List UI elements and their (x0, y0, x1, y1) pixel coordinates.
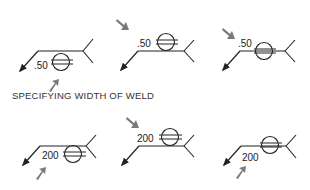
pointer-arrow-icon (116, 19, 129, 30)
plug-weld-circle-icon (65, 146, 82, 163)
arrow-leader (122, 146, 139, 165)
pointer-arrow-icon (236, 166, 246, 179)
width-label: .50 (34, 60, 48, 71)
tail-upper (286, 135, 296, 146)
arrow-leader (23, 146, 40, 165)
tail-upper (83, 39, 93, 51)
tail-lower (285, 51, 295, 62)
plug-weld-circle-icon (162, 129, 179, 146)
weld-symbol-r1-arrow-side: .50 (20, 39, 93, 92)
tail-upper (184, 40, 194, 51)
arrow-leader (224, 146, 241, 165)
tail-lower (86, 146, 96, 158)
weld-symbol-r2-other-side: 200 (122, 117, 194, 165)
width-label: .50 (137, 38, 151, 49)
weld-symbol-r2-arrow-side: 200 (23, 135, 96, 180)
tail-upper (86, 135, 96, 146)
width-label: 200 (137, 133, 154, 144)
plug-weld-circle-icon (158, 34, 175, 51)
arrow-leader (121, 51, 138, 70)
width-label: 200 (42, 150, 59, 161)
section-caption: SPECIFYING WIDTH OF WELD (12, 90, 154, 101)
width-label: 200 (242, 152, 259, 163)
tail-lower (83, 51, 93, 63)
pointer-arrow-icon (222, 28, 235, 39)
tail-lower (286, 146, 296, 158)
width-label: .50 (238, 38, 252, 49)
tail-lower (184, 51, 194, 62)
tail-upper (184, 135, 194, 146)
arrow-leader (223, 51, 240, 70)
weld-symbol-r1-centered: .50 (222, 28, 295, 70)
pointer-arrow-icon (36, 167, 46, 180)
tail-lower (184, 146, 194, 157)
plug-weld-circle-icon (53, 54, 70, 71)
plug-weld-circle-icon (262, 137, 279, 154)
pointer-arrow-icon (126, 117, 139, 128)
weld-symbol-r2-centered: 200 (224, 135, 296, 179)
weld-symbol-r1-other-side: .50 (116, 19, 194, 70)
tail-upper (285, 40, 295, 51)
